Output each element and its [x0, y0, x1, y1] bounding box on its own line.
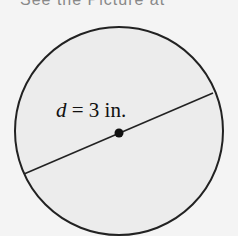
center-dot: [115, 129, 124, 138]
diameter-label: d = 3 in.: [56, 98, 126, 122]
circle-diagram: d = 3 in.: [0, 0, 238, 236]
